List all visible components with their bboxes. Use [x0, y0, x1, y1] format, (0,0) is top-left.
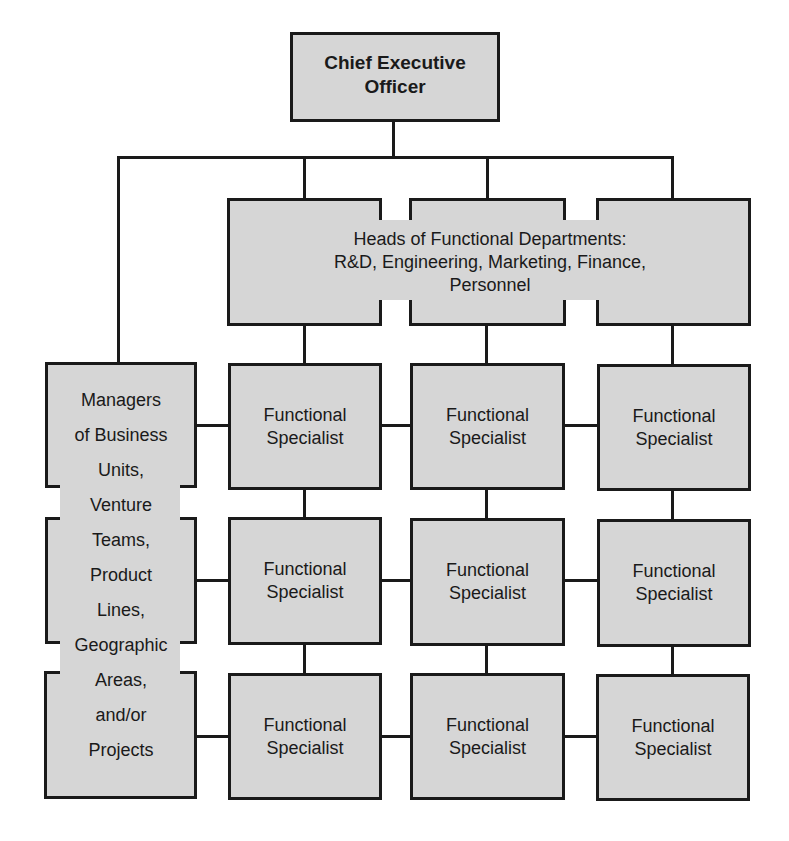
col2-connector-c: [485, 644, 488, 675]
specialist-box-r1c3: Functional Specialist: [597, 364, 751, 491]
specialist-box-r2c2: Functional Specialist: [410, 518, 565, 646]
specialist-label: Functional Specialist: [419, 404, 556, 450]
managers-label-line: Geographic: [45, 628, 197, 663]
top-horizontal-connector: [117, 156, 674, 159]
specialist-box-r2c3: Functional Specialist: [597, 519, 751, 647]
specialist-box-r1c2: Functional Specialist: [410, 363, 565, 490]
specialist-label: Functional Specialist: [237, 558, 373, 604]
managers-label-line: Projects: [45, 733, 197, 768]
ceo-down-connector: [392, 120, 395, 158]
managers-label-line: Teams,: [45, 523, 197, 558]
ceo-label: Chief Executive Officer: [290, 51, 500, 99]
specialist-label: Functional Specialist: [237, 404, 373, 450]
col3-connector-a: [671, 324, 674, 364]
managers-label-line: Lines,: [45, 593, 197, 628]
col1-connector-b: [303, 488, 306, 519]
managers-label-line: Managers: [45, 383, 197, 418]
heads-label-line3: Personnel: [250, 274, 730, 297]
heads-label-line2: R&D, Engineering, Marketing, Finance,: [250, 251, 730, 274]
heads-label: Heads of Functional Departments: R&D, En…: [250, 228, 730, 297]
specialist-label: Functional Specialist: [237, 714, 373, 760]
specialist-label: Functional Specialist: [419, 714, 556, 760]
heads-label-line1: Heads of Functional Departments:: [250, 228, 730, 251]
specialist-box-r1c1: Functional Specialist: [228, 363, 382, 490]
ceo-label-line2: Officer: [290, 75, 500, 99]
col3-connector-c: [671, 644, 674, 675]
specialist-label: Functional Specialist: [419, 559, 556, 605]
col2-connector-a: [485, 324, 488, 364]
specialist-label: Functional Specialist: [605, 715, 741, 761]
ceo-label-line1: Chief Executive: [290, 51, 500, 75]
col2-connector-b: [485, 488, 488, 519]
specialist-box-r3c3: Functional Specialist: [596, 674, 750, 801]
managers-drop-connector: [117, 156, 120, 363]
head3-drop-connector: [671, 156, 674, 199]
col1-connector-c: [303, 644, 306, 675]
specialist-box-r3c2: Functional Specialist: [410, 673, 565, 800]
managers-label-line: and/or: [45, 698, 197, 733]
specialist-box-r3c1: Functional Specialist: [228, 673, 382, 800]
head1-drop-connector: [303, 156, 306, 199]
managers-label-line: Areas,: [45, 663, 197, 698]
col3-connector-b: [671, 488, 674, 519]
managers-label-line: of Business: [45, 418, 197, 453]
managers-label-line: Product: [45, 558, 197, 593]
managers-label-line: Venture: [45, 488, 197, 523]
col1-connector-a: [303, 324, 306, 364]
specialist-label: Functional Specialist: [606, 405, 742, 451]
managers-label-line: Units,: [45, 453, 197, 488]
specialist-box-r2c1: Functional Specialist: [228, 517, 382, 645]
head2-drop-connector: [486, 156, 489, 199]
managers-label: Managers of Business Units, Venture Team…: [45, 383, 197, 768]
specialist-label: Functional Specialist: [606, 560, 742, 606]
